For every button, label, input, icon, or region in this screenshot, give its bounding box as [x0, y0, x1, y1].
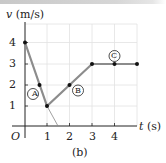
velocity-line — [25, 43, 137, 107]
figure-caption: (b) — [72, 147, 88, 158]
y-axis-label: v (m/s) — [6, 9, 44, 20]
x-tick-4: 4 — [111, 131, 118, 142]
annotation-a: A — [32, 90, 38, 98]
y-tick-4: 4 — [9, 37, 16, 48]
y-tick-3: 3 — [9, 58, 16, 69]
x-axis-label: t (s) — [139, 121, 161, 132]
y-tick-1: 1 — [9, 100, 16, 111]
velocity-time-graph — [0, 0, 166, 163]
origin-label: O — [11, 131, 20, 142]
x-tick-1: 1 — [44, 131, 51, 142]
tangent-line — [47, 106, 58, 126]
annotation-b: B — [75, 87, 81, 95]
y-tick-2: 2 — [9, 79, 16, 90]
x-tick-2: 2 — [66, 131, 73, 142]
x-tick-3: 3 — [89, 131, 96, 142]
annotation-c: C — [111, 52, 117, 60]
